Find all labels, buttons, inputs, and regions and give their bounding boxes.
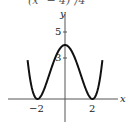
x-tick-label-neg2: −2: [29, 103, 44, 114]
x-axis-label: x: [120, 93, 126, 104]
y-axis-label: y: [59, 8, 66, 19]
function-graph: y x 5 3 −2 2: [0, 0, 135, 127]
y-tick-label-5: 5: [55, 26, 61, 37]
x-tick-label-2: 2: [89, 103, 95, 114]
y-tick-label-3: 3: [55, 52, 61, 63]
